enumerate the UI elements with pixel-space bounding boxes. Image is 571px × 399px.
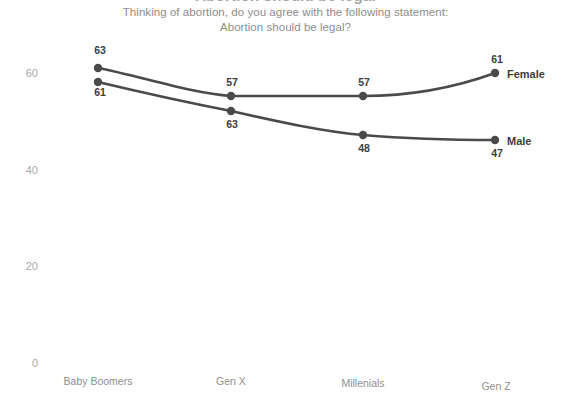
male-point-millenials xyxy=(359,131,367,139)
plot-area xyxy=(0,0,571,399)
male-line xyxy=(98,82,495,140)
male-point-gen-x xyxy=(227,107,235,115)
female-value-label-gen-z: 61 xyxy=(491,54,503,65)
female-value-label-millenials: 57 xyxy=(358,77,370,88)
male-value-label-gen-z: 47 xyxy=(491,148,503,159)
female-value-label-gen-x: 57 xyxy=(226,77,238,88)
series-label-male: Male xyxy=(507,135,531,147)
male-point-gen-z xyxy=(491,136,499,144)
male-value-label-gen-x: 63 xyxy=(226,119,238,130)
female-point-gen-z xyxy=(491,69,499,77)
male-value-label-millenials: 48 xyxy=(358,143,370,154)
series-label-female: Female xyxy=(507,68,545,80)
male-value-label-baby-boomers: 61 xyxy=(94,87,106,98)
female-point-baby-boomers xyxy=(94,64,102,72)
female-point-gen-x xyxy=(227,92,235,100)
male-point-baby-boomers xyxy=(94,78,102,86)
chart-container: Abortion should be legal Thinking of abo… xyxy=(0,0,571,399)
female-point-millenials xyxy=(359,92,367,100)
female-value-label-baby-boomers: 63 xyxy=(94,45,106,56)
female-line xyxy=(98,68,495,96)
